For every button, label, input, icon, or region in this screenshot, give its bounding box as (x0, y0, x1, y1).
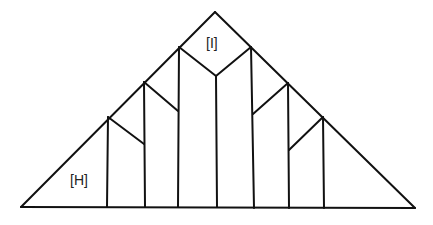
diagonal-member-1 (108, 117, 144, 144)
right-rafter (215, 12, 415, 208)
left-rafter (21, 12, 215, 207)
vertical-members (107, 47, 324, 208)
diagonal-member-5 (253, 83, 288, 114)
vertical-member-1 (107, 117, 108, 207)
vertical-member-3 (178, 47, 179, 207)
label-i: [I] (206, 35, 218, 51)
diagonal-member-6 (289, 117, 323, 150)
diagonal-member-3 (179, 47, 216, 76)
label-h: [H] (70, 172, 88, 188)
vertical-member-4 (216, 76, 217, 207)
vertical-member-6 (288, 83, 289, 208)
diagonal-member-4 (216, 47, 251, 76)
vertical-member-7 (323, 117, 324, 208)
diagonal-member-2 (144, 82, 178, 111)
truss-diagram: [H] [I] (0, 0, 433, 225)
base-chord (21, 207, 415, 208)
vertical-member-5 (251, 47, 254, 208)
